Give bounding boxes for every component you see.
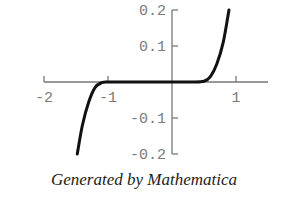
y-tick-label: -0.1: [130, 111, 166, 128]
x-tick-label: -1: [99, 90, 117, 107]
y-tick-label: 0.2: [139, 3, 166, 20]
y-tick-label: -0.2: [130, 147, 166, 164]
y-tick-label: 0.1: [139, 39, 166, 56]
x-tick-label: -2: [35, 90, 53, 107]
chart-plot: -2-110.20.1-0.1-0.2: [0, 0, 288, 198]
caption: Generated by Mathematica: [0, 170, 288, 190]
x-tick-label: 1: [231, 90, 240, 107]
data-curve: [77, 10, 229, 154]
